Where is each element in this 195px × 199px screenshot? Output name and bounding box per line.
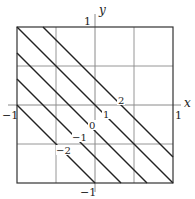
level-line-neg1 xyxy=(17,79,121,183)
level-label-neg2: −2 xyxy=(56,145,71,156)
x-tick-left: −1 xyxy=(2,109,18,122)
level-line-0 xyxy=(17,53,147,183)
level-label-0: 0 xyxy=(89,120,95,131)
y-tick-bottom: −1 xyxy=(80,186,96,199)
level-label-1: 1 xyxy=(103,109,109,120)
x-tick-right: 1 xyxy=(175,109,182,122)
level-line-2 xyxy=(43,27,173,157)
y-axis-label: y xyxy=(98,3,106,17)
level-label-2: 2 xyxy=(118,95,124,106)
level-label-neg1: −1 xyxy=(72,132,87,143)
y-tick-top: 1 xyxy=(84,15,91,28)
contour-diagram: 2 1 0 −1 −2 1 −1 −1 1 x y xyxy=(0,0,195,199)
x-axis-label: x xyxy=(184,96,191,110)
